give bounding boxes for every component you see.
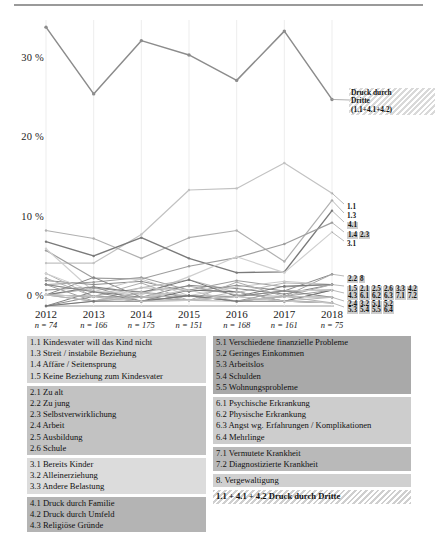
legend-group-right-2: 7.1 Vermutete Krankheit7.2 Diagnostizier… (213, 447, 411, 471)
y-tick-20: 20 % (21, 131, 44, 142)
end-label-code: 8 (359, 276, 365, 283)
legend-item: 2.4 Arbeit (30, 420, 203, 431)
legend-group-right-0: 5.1 Verschiedene finanzielle Probleme5.2… (213, 336, 411, 394)
legend-item: 6.4 Mehrlinge (216, 432, 408, 443)
end-label-code: 5.4 (359, 307, 370, 314)
end-label-code: 5.5 (371, 307, 382, 314)
end-label-4_3-6_1-6_2-6_3-7_1-7_2: 4.36.16.26.37.17.2 (346, 293, 420, 300)
legend-item: 6.1 Psychische Erkrankung (216, 398, 408, 409)
legend-group-right-1: 6.1 Psychische Erkrankung6.2 Physische E… (213, 397, 411, 444)
y-axis-tick-labels: 0 %10 %20 %30 % (0, 8, 44, 308)
top-divider-rule (14, 4, 423, 6)
legend-item: 5.5 Wohnungsprobleme (216, 382, 408, 393)
legend-item: 4.3 Religiöse Gründe (30, 520, 203, 531)
end-label-code: 1.3 (346, 213, 357, 220)
end-label-code: 5.3 (347, 307, 358, 314)
legend: 1.1 Kindesvater will das Kind nicht1.3 S… (0, 336, 437, 550)
legend-column-left: 1.1 Kindesvater will das Kind nicht1.3 S… (27, 336, 206, 535)
end-label-code: 1.4 (347, 232, 358, 239)
annotation-line: (1.1+4.1+4.2) (351, 106, 433, 114)
end-label-3_1: 3.1 (346, 241, 358, 248)
druck-durch-dritte-annotation: Druck durchDritte(1.1+4.1+4.2) (349, 88, 435, 115)
legend-item: 1.1 + 4.1 + 4.2 Druck durch Dritte (216, 491, 408, 502)
legend-item: 7.1 Vermutete Krankheit (216, 448, 408, 459)
series-end-labels: 1.11.34.11.42.33.12.281.52.12.52.63.34.2… (330, 16, 437, 338)
end-label-code: 2.3 (359, 232, 370, 239)
legend-group-right-4: 1.1 + 4.1 + 4.2 Druck durch Dritte (213, 490, 411, 503)
line-chart: 0 %10 %20 %30 % 2012n = 742013n = 166201… (0, 8, 437, 330)
legend-item: 3.2 Alleinerziehung (30, 470, 203, 481)
legend-column-right: 5.1 Verschiedene finanzielle Probleme5.2… (213, 336, 411, 507)
end-label-4_1: 4.1 (346, 222, 360, 229)
chart-page: 0 %10 %20 %30 % 2012n = 742013n = 166201… (0, 0, 437, 550)
legend-item: 4.2 Druck durch Umfeld (30, 509, 203, 520)
end-label-1_4-2_3: 1.42.3 (346, 232, 372, 239)
legend-item: 2.3 Selbstverwirklichung (30, 409, 203, 420)
legend-item: 5.1 Verschiedene finanzielle Probleme (216, 337, 408, 348)
legend-item: 6.3 Angst wg. Erfahrungen / Komplikation… (216, 420, 408, 431)
legend-item: 3.1 Bereits Kinder (30, 459, 203, 470)
end-label-code: 7.2 (407, 293, 418, 300)
end-label-code: 3.1 (346, 241, 357, 248)
legend-item: 2.6 Schule (30, 443, 203, 454)
end-label-code: 6.4 (383, 307, 394, 314)
y-tick-10: 10 % (21, 211, 44, 222)
legend-item: 5.3 Arbeitslos (216, 359, 408, 370)
legend-item: 3.3 Andere Belastung (30, 481, 203, 492)
end-label-code: 1.1 (346, 204, 357, 211)
legend-group-left-3: 4.1 Druck durch Familie4.2 Druck durch U… (27, 497, 206, 533)
end-label-1_3: 1.3 (346, 213, 358, 220)
legend-item: 5.2 Geringes Einkommen (216, 348, 408, 359)
end-label-1_1: 1.1 (346, 204, 358, 211)
end-label-2_2-8: 2.28 (346, 276, 367, 283)
legend-group-left-1: 2.1 Zu alt2.2 Zu jung2.3 Selbstverwirkli… (27, 386, 206, 455)
y-tick-0: 0 % (27, 290, 44, 301)
legend-group-left-2: 3.1 Bereits Kinder3.2 Alleinerziehung3.3… (27, 458, 206, 494)
y-tick-30: 30 % (21, 52, 44, 63)
legend-item: 1.1 Kindesvater will das Kind nicht (30, 337, 203, 348)
legend-item: 4.1 Druck durch Familie (30, 498, 203, 509)
legend-group-right-3: 8. Vergewaltigung (213, 474, 411, 487)
legend-item: 2.5 Ausbildung (30, 432, 203, 443)
legend-item: 2.1 Zu alt (30, 387, 203, 398)
legend-group-left-0: 1.1 Kindesvater will das Kind nicht1.3 S… (27, 336, 206, 383)
legend-item: 1.5 Keine Beziehung zum Kindesvater (30, 371, 203, 382)
end-label-code: 7.1 (395, 293, 406, 300)
legend-item: 2.2 Zu jung (30, 398, 203, 409)
legend-item: 1.4 Affäre / Seitensprung (30, 359, 203, 370)
end-label-5_3-5_4-5_5-6_4: 5.35.45.56.4 (346, 307, 396, 314)
end-label-code: 2.2 (347, 276, 358, 283)
legend-item: 7.2 Diagnostizierte Krankheit (216, 459, 408, 470)
legend-item: 5.4 Schulden (216, 371, 408, 382)
legend-item: 8. Vergewaltigung (216, 475, 408, 486)
end-label-code: 4.1 (347, 222, 358, 229)
legend-item: 6.2 Physische Erkrankung (216, 409, 408, 420)
legend-item: 1.3 Streit / instabile Beziehung (30, 348, 203, 359)
